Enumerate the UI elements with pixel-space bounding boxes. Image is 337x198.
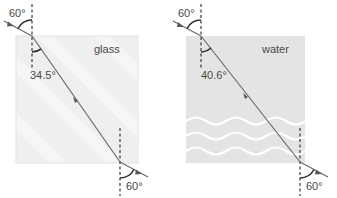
glass-label: glass [94, 43, 120, 55]
arrow-icon [7, 22, 14, 27]
arrow-icon [135, 170, 142, 175]
incident-angle-label: 60° [178, 7, 195, 19]
emergent-angle-label: 60° [306, 180, 323, 192]
arrow-icon [177, 22, 184, 27]
incident-angle-arc [18, 20, 32, 29]
refracted-angle-label: 34.5° [30, 69, 56, 81]
refraction-diagram: glass 60° 34.5° 60° water [0, 0, 337, 198]
refracted-angle-label: 40.6° [201, 69, 227, 81]
emergent-angle-arc [300, 170, 314, 179]
incident-angle-arc [187, 20, 201, 29]
water-label: water [261, 43, 289, 55]
water-block [186, 36, 305, 163]
emergent-angle-arc [120, 170, 134, 179]
emergent-angle-label: 60° [126, 180, 143, 192]
arrow-icon [315, 170, 322, 175]
incident-angle-label: 60° [9, 7, 26, 19]
glass-panel: glass 60° 34.5° 60° [4, 4, 148, 196]
water-panel: water 60° 40.6° 60° [173, 4, 328, 196]
